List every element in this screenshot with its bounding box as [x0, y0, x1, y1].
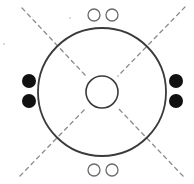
filled-circle — [169, 94, 183, 108]
stray-dot — [69, 17, 71, 19]
open-circle — [106, 164, 118, 176]
filled-circle — [22, 94, 36, 108]
filled-circle — [22, 74, 36, 88]
open-circle — [106, 9, 118, 21]
stray-dot — [3, 43, 5, 45]
filled-circle — [169, 74, 183, 88]
open-circle — [88, 9, 100, 21]
diagram-canvas — [0, 0, 194, 184]
open-circle — [88, 164, 100, 176]
